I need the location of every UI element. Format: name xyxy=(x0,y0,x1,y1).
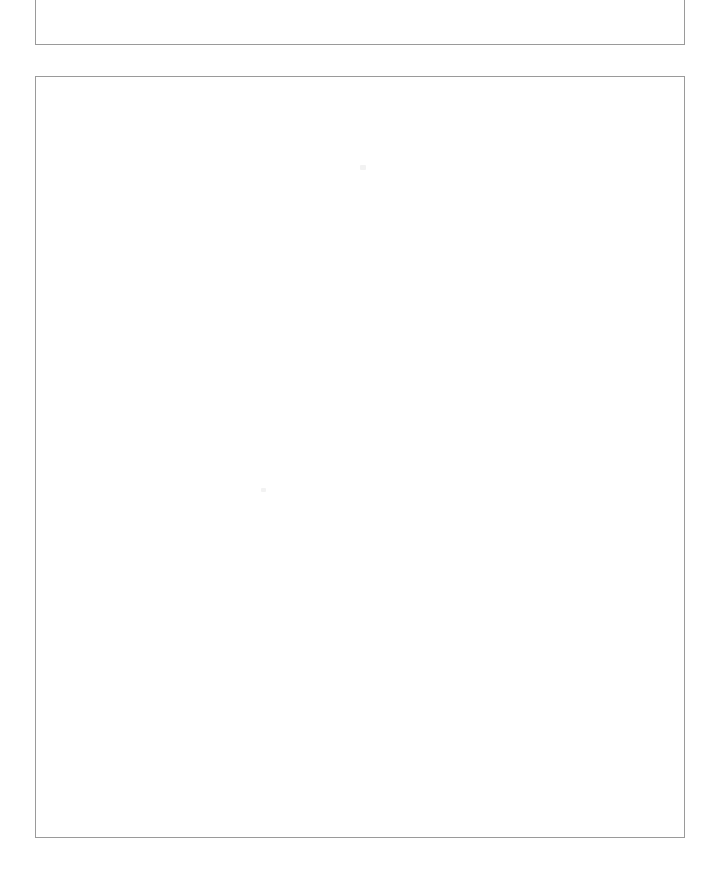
upper-box-body: Description of the document xyxy=(36,0,684,44)
scan-speck-upper-icon xyxy=(360,165,366,170)
upper-bordered-box: Description of the document xyxy=(35,0,685,45)
lower-box-body xyxy=(36,77,684,837)
document-page: Description of the document xyxy=(0,0,721,887)
scan-speck-middle-icon xyxy=(261,488,266,492)
lower-bordered-box xyxy=(35,76,685,838)
